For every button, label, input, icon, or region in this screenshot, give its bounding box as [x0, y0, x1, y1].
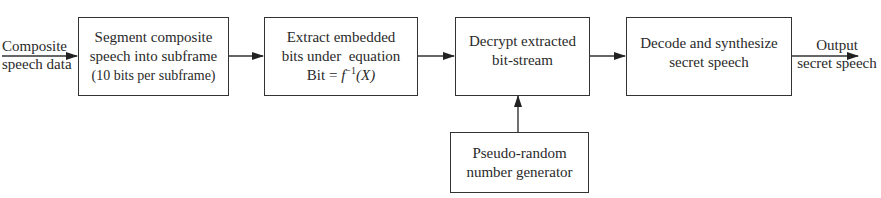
block-decode: Decode and synthesize secret speech [626, 17, 792, 96]
block-segment-line-3: (10 bits per subframe) [91, 66, 215, 85]
block-extract-equation: Bit = f−1(X) [307, 66, 375, 85]
flow-diagram: Composite speech data Output secret spee… [0, 0, 881, 198]
output-label-line-1: Output [794, 36, 880, 54]
equation-argument: (X) [356, 67, 375, 83]
block-prng-line-2: number generator [466, 163, 572, 182]
equation-prefix: Bit = [307, 67, 341, 83]
output-label: Output secret speech [794, 36, 880, 72]
block-segment-line-2: speech into subframe [90, 47, 217, 66]
block-prng: Pseudo-random number generator [450, 132, 589, 193]
block-segment-line-1: Segment composite [95, 28, 213, 47]
block-decode-line-2: secret speech [669, 53, 749, 72]
input-label-line-2: speech data [2, 55, 72, 73]
block-extract-line-2: bits under equation [282, 47, 401, 66]
block-decrypt-line-2: bit-stream [492, 51, 553, 70]
block-prng-line-1: Pseudo-random [472, 144, 566, 163]
input-label: Composite speech data [2, 37, 72, 73]
block-extract-line-1: Extract embedded [287, 28, 396, 47]
output-label-line-2: secret speech [794, 54, 880, 72]
block-extract: Extract embedded bits under equation Bit… [264, 17, 418, 96]
block-decrypt-line-1: Decrypt extracted [469, 32, 576, 51]
block-decode-line-1: Decode and synthesize [640, 34, 777, 53]
input-label-line-1: Composite [2, 37, 72, 55]
block-segment: Segment composite speech into subframe (… [78, 17, 229, 96]
block-decrypt: Decrypt extracted bit-stream [455, 17, 590, 96]
equation-superscript: −1 [345, 65, 356, 76]
